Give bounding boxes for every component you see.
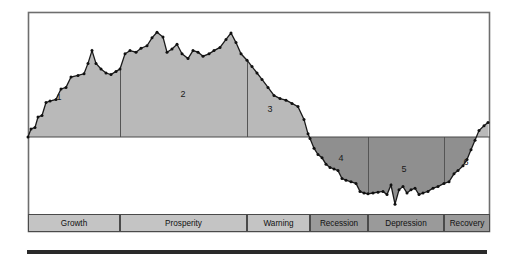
data-point-marker <box>307 132 310 135</box>
legend-cell-label: Growth <box>61 219 88 228</box>
data-point-marker <box>41 114 44 117</box>
data-point-marker <box>414 187 417 190</box>
legend-cell-depression[interactable]: Depression <box>369 215 444 232</box>
data-point-marker <box>162 36 165 39</box>
data-point-marker <box>487 121 490 124</box>
legend-cell-label: Warning <box>263 219 294 228</box>
data-point-marker <box>341 177 344 180</box>
data-point-marker <box>151 36 154 39</box>
data-point-marker <box>303 118 306 121</box>
data-point-marker <box>432 187 435 190</box>
data-point-marker <box>105 72 108 75</box>
data-point-marker <box>246 59 249 62</box>
data-point-marker <box>219 46 222 49</box>
data-point-marker <box>251 65 254 68</box>
phase-number-1: 1 <box>56 92 61 102</box>
data-point-marker <box>83 72 86 75</box>
data-point-marker <box>386 193 389 196</box>
data-point-marker <box>285 99 288 102</box>
data-point-marker <box>448 180 451 183</box>
business-cycle-chart: 123456 GrowthProsperityWarningRecessionD… <box>0 0 518 257</box>
data-point-marker <box>197 51 200 54</box>
legend-cell-warning[interactable]: Warning <box>248 215 310 232</box>
data-point-marker <box>394 203 397 206</box>
data-point-marker <box>60 88 63 91</box>
data-point-marker <box>115 70 118 73</box>
data-point-marker <box>410 188 413 191</box>
data-point-marker <box>240 52 243 55</box>
data-point-marker <box>256 72 259 75</box>
data-point-marker <box>291 102 294 105</box>
data-point-marker <box>418 193 421 196</box>
data-point-marker <box>470 148 473 151</box>
data-point-marker <box>443 182 446 185</box>
data-point-marker <box>273 94 276 97</box>
data-point-marker <box>402 185 405 188</box>
data-point-marker <box>37 116 40 119</box>
data-point-marker <box>171 48 174 51</box>
data-point-marker <box>140 47 143 50</box>
data-point-marker <box>337 169 340 172</box>
legend-cell-prosperity[interactable]: Prosperity <box>121 215 247 232</box>
phase-number-5: 5 <box>401 164 406 174</box>
data-point-marker <box>213 49 216 52</box>
data-point-marker <box>119 68 122 71</box>
data-point-marker <box>321 156 324 159</box>
legend-cell-label: Recession <box>320 219 359 228</box>
data-point-marker <box>27 136 30 139</box>
data-point-marker <box>309 137 312 140</box>
phase-number-6: 6 <box>463 157 468 167</box>
data-point-marker <box>363 192 366 195</box>
data-point-marker <box>377 191 380 194</box>
data-point-marker <box>34 126 37 129</box>
data-point-marker <box>110 73 113 76</box>
data-point-marker <box>427 190 430 193</box>
legend-cell-label: Recovery <box>450 219 485 228</box>
data-point-marker <box>437 185 440 188</box>
data-point-marker <box>124 52 127 55</box>
data-point-marker <box>367 192 370 195</box>
data-point-marker <box>297 105 300 108</box>
data-point-marker <box>135 51 138 54</box>
data-point-marker <box>474 139 477 142</box>
legend-cell-recovery[interactable]: Recovery <box>445 215 490 232</box>
data-point-marker <box>77 74 80 77</box>
data-point-marker <box>406 192 409 195</box>
legend-cell-recession[interactable]: Recession <box>311 215 368 232</box>
business-cycle-figure: 123456 GrowthProsperityWarningRecessionD… <box>0 0 518 257</box>
data-point-marker <box>166 51 169 54</box>
data-point-marker <box>100 68 103 71</box>
data-point-marker <box>49 100 52 103</box>
data-point-marker <box>422 192 425 195</box>
data-point-marker <box>279 97 282 100</box>
data-point-marker <box>382 190 385 193</box>
data-point-marker <box>91 49 94 52</box>
data-point-marker <box>345 179 348 182</box>
data-point-marker <box>359 190 362 193</box>
data-point-marker <box>30 128 33 131</box>
data-point-marker <box>390 184 393 187</box>
data-point-marker <box>146 44 149 47</box>
data-point-marker <box>70 76 73 79</box>
bottom-accent-bar <box>27 250 487 254</box>
data-point-marker <box>65 86 68 89</box>
data-point-marker <box>398 188 401 191</box>
data-point-marker <box>45 101 48 104</box>
data-point-marker <box>350 180 353 183</box>
data-point-marker <box>208 52 211 55</box>
phase-number-3: 3 <box>267 104 272 114</box>
data-point-marker <box>230 32 233 35</box>
data-point-marker <box>187 57 190 60</box>
data-point-marker <box>372 192 375 195</box>
data-point-marker <box>313 147 316 150</box>
data-point-marker <box>267 86 270 89</box>
phase-number-2: 2 <box>180 89 185 99</box>
data-point-marker <box>457 169 460 172</box>
data-point-marker <box>261 78 264 81</box>
data-point-marker <box>483 124 486 127</box>
data-point-marker <box>317 153 320 156</box>
legend-cell-growth[interactable]: Growth <box>29 215 120 232</box>
legend-cell-label: Depression <box>385 219 427 228</box>
data-point-marker <box>87 62 90 65</box>
data-point-marker <box>235 41 238 44</box>
